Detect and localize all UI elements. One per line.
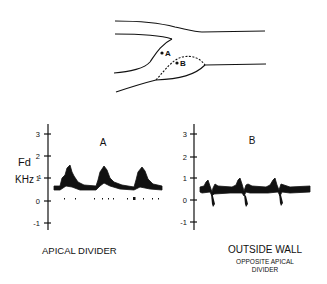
ylabel-fd: Fd [18, 156, 31, 168]
panel-b-caption: OUTSIDE WALL [210, 244, 320, 255]
panel-a-caption: APICAL DIVIDER [20, 245, 180, 256]
branch-inner-wall-top [115, 34, 172, 39]
tick-label-1: 1 [183, 174, 187, 183]
tick-label-minus-1: -1 [180, 218, 187, 227]
panel-a-title: A [100, 137, 107, 148]
outside-wall-lower [116, 65, 205, 92]
figure-canvas: A B 3 2 1 0 -1 Fd KHz 1 A [0, 0, 327, 284]
reversal-dip-1 [211, 194, 215, 207]
tick-label-3: 3 [36, 130, 40, 139]
point-a-label: A [165, 49, 171, 58]
tick-label-0: 0 [36, 197, 40, 206]
outer-wall-lower [205, 64, 266, 65]
panel-a-trace [54, 165, 162, 200]
panel-b-trace [200, 178, 310, 207]
panel-b-y-axis [190, 124, 197, 230]
panel-b-subcaption-line1: OPPOSITE APICAL [210, 258, 320, 265]
reversal-dip-3 [279, 193, 283, 206]
apical-divider-wall [114, 39, 172, 73]
tick-label-3: 3 [183, 130, 187, 139]
tick-label-2: 2 [183, 153, 187, 162]
panel-b-title: B [249, 135, 256, 146]
point-a-marker [160, 51, 163, 54]
panel-b-subcaption-line2: DIVIDER [210, 266, 320, 273]
outer-wall-top [115, 21, 265, 32]
panel-b-tick-labels: 3 2 1 0 -1 [180, 130, 187, 227]
ylabel-khz: KHz [15, 174, 34, 185]
point-b-label: B [180, 59, 186, 68]
bifurcation-diagram [114, 21, 266, 92]
tick-label-minus-1: -1 [33, 219, 40, 228]
diagram-point-b: B [175, 59, 186, 68]
diagram-point-a: A [160, 49, 171, 58]
ylabel-superscript: 1 [38, 174, 42, 180]
tick-label-0: 0 [183, 196, 187, 205]
panel-a-y-axis [44, 124, 51, 230]
reversal-dip-2 [244, 194, 248, 207]
point-b-marker [175, 61, 178, 64]
tick-label-2: 2 [36, 152, 40, 161]
